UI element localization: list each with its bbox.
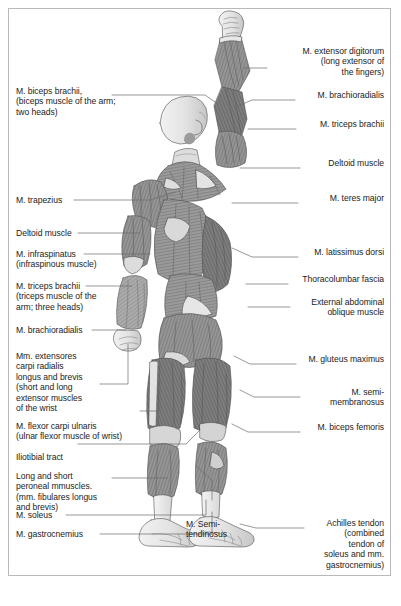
label-gastrocnemius: M. gastrocnemius [16, 529, 126, 539]
label-teres-major: M. teres major [264, 193, 384, 203]
label-peroneal-muscles: Long and short peroneal mmuscles. (mm. f… [16, 471, 140, 513]
label-achilles-tendon: Achilles tendon (combined tendon of sole… [254, 518, 384, 570]
label-soleus: M. soleus [16, 510, 126, 520]
label-semitendinosus: M. Semi- tendinosus [186, 519, 256, 540]
label-infraspinatus: M. infraspinatus (infraspinous muscle) [16, 249, 136, 270]
label-flexor-carpi-ulnaris: M. flexor carpi ulnaris (ulnar flexor mu… [16, 421, 166, 442]
label-deltoid-muscle-left: Deltoid muscle [16, 228, 126, 238]
anatomy-figure-page: M. biceps brachii, (biceps muscle of the… [0, 0, 401, 606]
label-triceps-brachii-left: M. triceps brachii (triceps muscle of th… [16, 281, 136, 312]
label-deltoid-muscle-right: Deltoid muscle [264, 158, 384, 168]
label-brachioradialis-right: M. brachioradialis [264, 90, 384, 100]
label-external-abdominal-oblique: External abdominal oblique muscle [254, 297, 384, 318]
label-biceps-brachii: M. biceps brachii, (biceps muscle of the… [16, 86, 146, 117]
label-gluteus-maximus: M. gluteus maximus [254, 354, 384, 364]
label-extensores-carpi-radialis: Mm. extensores carpi radialis longus and… [16, 351, 120, 413]
label-latissimus-dorsi: M. latissimus dorsi [254, 247, 384, 257]
label-brachioradialis-left: M. brachioradialis [16, 325, 136, 335]
label-thoracolumbar-fascia: Thoracolumbar fascia [244, 274, 384, 284]
label-semimembranosus: M. semi- membranosus [264, 387, 384, 408]
label-trapezius: M. trapezius [16, 195, 126, 205]
label-iliotibial-tract: Iliotibial tract [16, 452, 126, 462]
label-biceps-femoris: M. biceps femoris [264, 422, 384, 432]
label-extensor-digitorum: M. extensor digitorum (long extensor of … [249, 46, 384, 77]
label-triceps-brachii-right: M. triceps brachii [264, 119, 384, 129]
